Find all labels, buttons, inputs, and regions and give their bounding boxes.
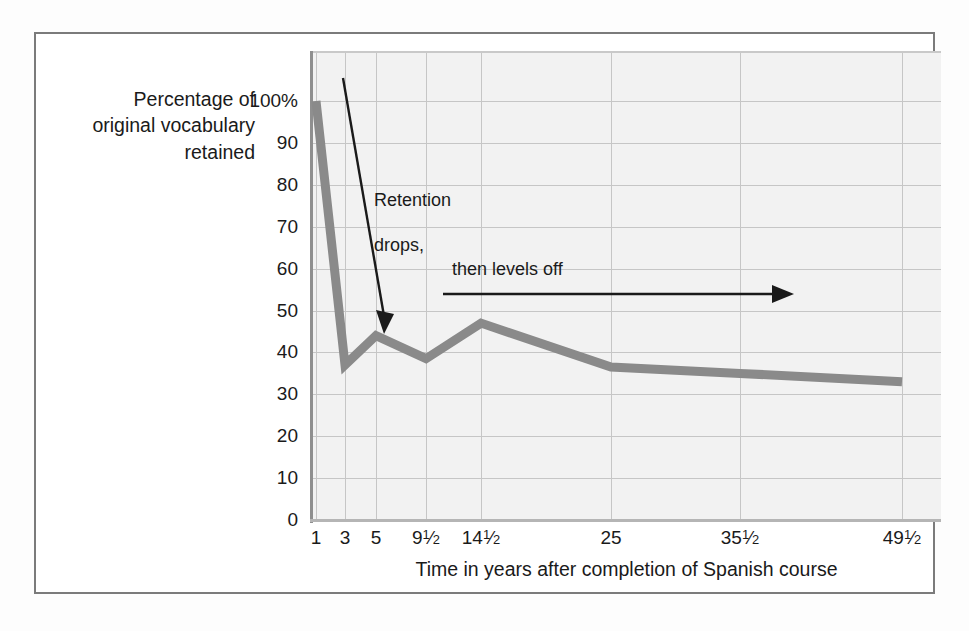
y-tick-labels: 0102030405060708090100% (180, 0, 298, 631)
x-tick-label-2: 5 (371, 528, 382, 547)
x-tick-label-1: 3 (340, 528, 351, 547)
x-axis-caption: Time in years after completion of Spanis… (312, 558, 941, 581)
gridline-h-100 (312, 101, 941, 102)
gridline-h-20 (312, 436, 941, 437)
y-tick-label-0: 0 (287, 510, 298, 529)
annotation-then-levels-off: then levels off (452, 258, 563, 281)
gridline-v-5 (611, 53, 612, 521)
x-tick-label-3: 91⁄2 (412, 528, 440, 547)
y-tick-label-50: 50 (277, 301, 298, 320)
gridline-v-3 (426, 53, 427, 521)
x-tick-label-0: 1 (311, 528, 322, 547)
x-tick-label-5: 25 (600, 528, 621, 547)
x-axis-line (310, 519, 941, 522)
gridline-h-50 (312, 311, 941, 312)
gridline-v-0 (316, 53, 317, 521)
annotation-retention-drops: Retention drops, (374, 166, 451, 279)
y-tick-label-30: 30 (277, 384, 298, 403)
gridline-h-90 (312, 143, 941, 144)
gridline-v-4 (481, 53, 482, 521)
y-tick-label-10: 10 (277, 468, 298, 487)
gridline-h-40 (312, 352, 941, 353)
x-tick-label-6: 351⁄2 (721, 528, 760, 547)
annotation-retention-drops-line-1: Retention (374, 189, 451, 212)
y-tick-label-90: 90 (277, 133, 298, 152)
plot-area (312, 53, 941, 521)
x-tick-label-4: 141⁄2 (462, 528, 501, 547)
annotation-retention-drops-line-2: drops, (374, 234, 451, 257)
y-tick-label-100: 100% (249, 91, 298, 110)
y-tick-label-20: 20 (277, 426, 298, 445)
y-tick-label-60: 60 (277, 259, 298, 278)
gridline-v-6 (740, 53, 741, 521)
gridline-h-10 (312, 478, 941, 479)
x-tick-label-7: 491⁄2 (883, 528, 922, 547)
y-tick-label-70: 70 (277, 217, 298, 236)
y-tick-label-40: 40 (277, 342, 298, 361)
gridline-v-1 (345, 53, 346, 521)
y-tick-label-80: 80 (277, 175, 298, 194)
gridline-v-7 (902, 53, 903, 521)
gridline-v-2 (376, 53, 377, 521)
figure-canvas: Percentage of original vocabulary retain… (0, 0, 969, 631)
gridline-h-30 (312, 394, 941, 395)
y-axis-line (310, 51, 313, 523)
